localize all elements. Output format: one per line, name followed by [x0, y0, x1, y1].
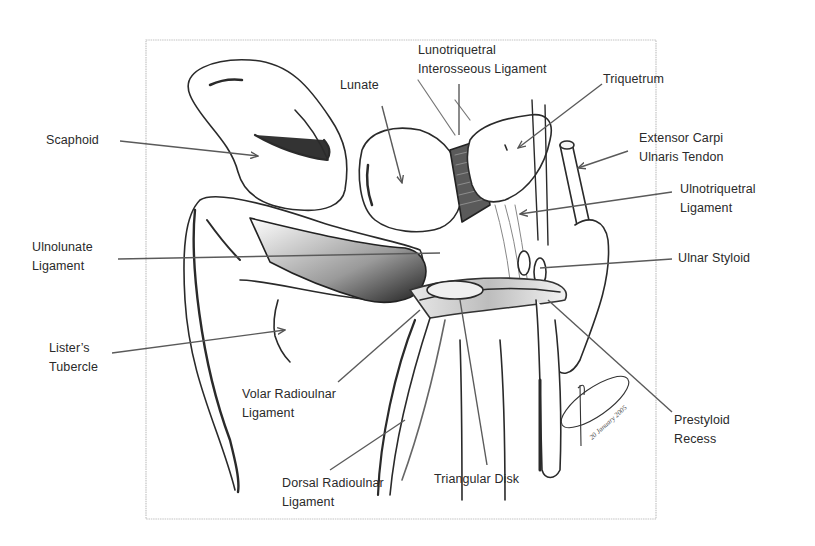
triquetrum-bone — [467, 115, 551, 202]
anatomy-sketch — [184, 60, 609, 500]
leader-triangular-disk — [460, 300, 487, 465]
label-triquetrum: Triquetrum — [603, 70, 664, 89]
label-ulnar-styloid: Ulnar Styloid — [678, 249, 750, 268]
wrist-anatomy-illustration: 20 January 2005 — [0, 0, 815, 546]
label-lunotriquetral-interosseous-ligament: Lunotriquetral Interosseous Ligament — [418, 41, 547, 79]
label-lunate: Lunate — [340, 76, 379, 95]
label-volar-radioulnar-ligament: Volar Radioulnar Ligament — [242, 385, 336, 423]
ecu-tendon — [560, 143, 590, 230]
label-scaphoid: Scaphoid — [46, 131, 99, 150]
artist-signature: 20 January 2005 — [554, 368, 636, 446]
scaphoid-bone — [188, 60, 347, 211]
label-triangular-disk: Triangular Disk — [434, 470, 519, 489]
label-ulnolunate-ligament: Ulnolunate Ligament — [32, 238, 93, 276]
lunate-bone — [359, 128, 462, 232]
label-dorsal-radioulnar-ligament: Dorsal Radioulnar Ligament — [282, 474, 384, 512]
label-ulnotriquetral-ligament: Ulnotriquetral Ligament — [680, 180, 756, 218]
leader-ecu — [578, 151, 628, 168]
label-prestyloid-recess: Prestyloid Recess — [674, 411, 730, 449]
leader-ulnotriquetral — [520, 192, 672, 214]
leader-volar-ru — [338, 310, 420, 382]
label-extensor-carpi-ulnaris-tendon: Extensor Carpi Ulnaris Tendon — [639, 129, 724, 167]
label-listers-tubercle: Lister’s Tubercle — [49, 339, 98, 377]
